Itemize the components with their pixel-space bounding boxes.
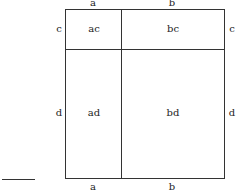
rect-right-edge (224, 9, 225, 179)
vertical-divider (121, 9, 122, 179)
rect-top-edge (65, 9, 225, 10)
cell-bc: bc (161, 24, 185, 34)
left-label-d: d (54, 108, 64, 118)
cell-bd: bd (161, 108, 185, 118)
top-label-a: a (88, 0, 98, 8)
bottom-label-a: a (88, 182, 98, 192)
horizontal-divider (65, 49, 225, 50)
right-label-c: c (227, 24, 236, 34)
cell-ac: ac (82, 24, 106, 34)
rect-bottom-edge (65, 178, 225, 179)
left-label-c: c (54, 24, 64, 34)
cell-ad: ad (82, 108, 106, 118)
right-label-d: d (227, 108, 236, 118)
top-label-b: b (167, 0, 177, 8)
bottom-label-b: b (167, 182, 177, 192)
rect-left-edge (65, 9, 66, 179)
stray-line (2, 179, 35, 180)
